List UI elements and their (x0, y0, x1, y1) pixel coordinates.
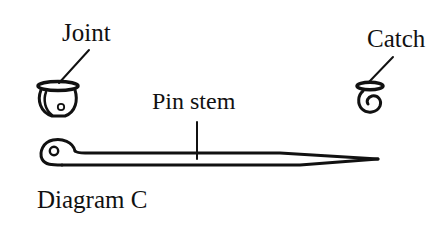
pin-stem-label: Pin stem (152, 89, 235, 113)
diagram-canvas: Joint Catch Pin stem Diagram C (0, 0, 447, 235)
joint-icon (38, 82, 78, 117)
joint-leader-line (59, 50, 89, 83)
diagram-caption: Diagram C (37, 187, 147, 212)
joint-label: Joint (62, 20, 111, 45)
catch-label: Catch (367, 26, 425, 51)
catch-leader-line (368, 57, 393, 83)
pin-stem-icon (41, 139, 378, 165)
catch-icon (357, 82, 383, 112)
